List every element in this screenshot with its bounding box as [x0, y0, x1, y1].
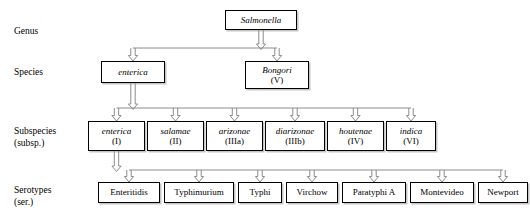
flow-arrow [194, 170, 203, 182]
flow-arrow [369, 170, 378, 182]
row-label-serotypes: Serotypes (ser.) [14, 185, 51, 208]
subspecies-node-salamae: salamae(II) [147, 121, 204, 151]
serotype-node-montevideo: Montevideo [410, 182, 474, 203]
serotype-node-typhi: Typhi [238, 182, 282, 203]
connector-genus-to-species [128, 30, 281, 61]
node-name: Montevideo [420, 187, 464, 198]
row-label-subspecies: Subspecies (subsp.) [14, 126, 56, 149]
node-subscript: (II) [170, 136, 182, 147]
flow-arrow [307, 170, 316, 182]
flow-arrow [124, 170, 133, 182]
node-name: Salmonella [241, 15, 282, 26]
flow-arrow [272, 48, 281, 61]
species-node-bongori: Bongori(V) [245, 61, 309, 89]
node-name: indica [400, 126, 423, 137]
flow-arrow [351, 108, 360, 121]
node-name: Enteritidis [110, 187, 148, 198]
serotype-node-typhimurium: Typhimurium [164, 182, 234, 203]
subspecies-node-enterica: enterica(I) [88, 121, 145, 151]
subspecies-node-indica: indica(VI) [386, 121, 436, 151]
flow-arrow [112, 151, 121, 172]
node-name: houtenae [339, 126, 372, 137]
serotype-node-paratyphi-a: Paratyphi A [342, 182, 406, 203]
genus-node-salmonella: Salmonella [225, 10, 297, 30]
species-node-enterica: enterica [101, 61, 165, 83]
flow-arrow [406, 108, 415, 121]
flow-arrow [256, 30, 265, 50]
serotype-node-newport: Newport [478, 182, 528, 203]
serotype-node-virchow: Virchow [286, 182, 338, 203]
flow-arrow [290, 108, 299, 121]
serotype-node-enteritidis: Enteritidis [98, 182, 160, 203]
node-subscript: (V) [271, 75, 284, 86]
row-label-genus: Genus [14, 26, 38, 38]
row-label-species: Species [14, 67, 43, 79]
node-subscript: (I) [112, 136, 121, 147]
taxonomy-diagram: Genus Species Subspecies (subsp.) Seroty… [0, 0, 530, 220]
subspecies-node-houtenae: houtenae(IV) [327, 121, 384, 151]
node-name: Typhi [250, 187, 271, 198]
flow-arrow [437, 170, 446, 182]
flow-arrow [128, 48, 137, 61]
flow-arrow [112, 108, 121, 121]
node-name: Virchow [297, 187, 328, 198]
flow-arrow [498, 170, 507, 182]
node-subscript: (IIIa) [225, 136, 244, 147]
subspecies-node-arizonae: arizonae(IIIa) [206, 121, 263, 151]
connector-subspecies-to-serotypes [112, 151, 508, 182]
node-name: Bongori [262, 65, 292, 76]
node-subscript: (IIIb) [285, 136, 305, 147]
node-name: Paratyphi A [353, 187, 396, 198]
flow-arrow [255, 170, 264, 182]
node-subscript: (IV) [348, 136, 364, 147]
node-name: Typhimurium [174, 187, 223, 198]
subspecies-node-diarizonae: diarizonae(IIIb) [265, 121, 325, 151]
node-name: enterica [118, 67, 148, 78]
node-name: arizonae [219, 126, 251, 137]
node-name: Newport [487, 187, 519, 198]
node-name: diarizonae [276, 126, 315, 137]
node-name: salamae [161, 126, 191, 137]
node-name: enterica [102, 126, 132, 137]
flow-arrow [128, 83, 137, 110]
node-subscript: (VI) [403, 136, 419, 147]
flow-arrow [230, 108, 239, 121]
flow-arrow [171, 108, 180, 121]
